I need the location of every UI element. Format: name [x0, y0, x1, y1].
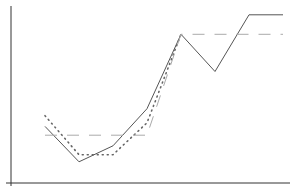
series-layer [45, 15, 283, 162]
series-solid-line [45, 15, 283, 162]
line-chart [0, 0, 290, 193]
series-dotted-line [45, 34, 181, 154]
series-dashed-line [45, 34, 283, 135]
